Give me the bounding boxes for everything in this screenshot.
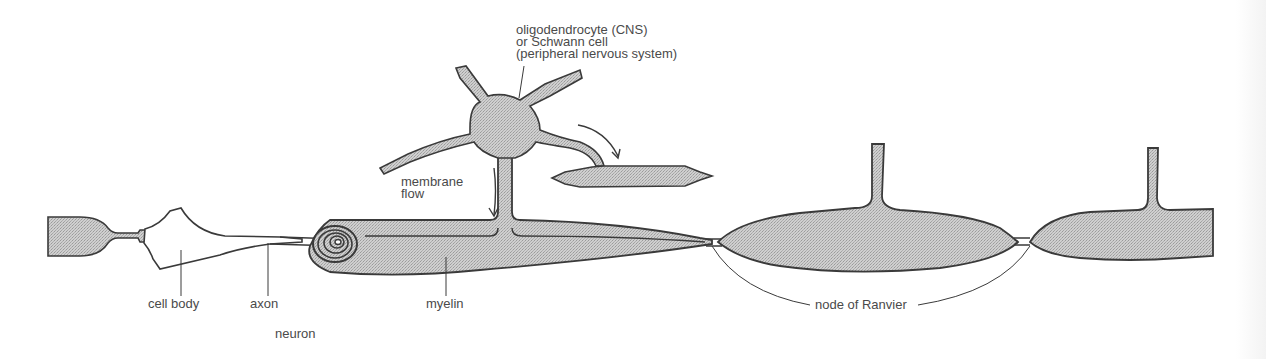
page-edge-shadow — [1236, 0, 1266, 359]
myelination-diagram: oligodendrocyte (CNS) or Schwann cell (p… — [0, 0, 1266, 359]
myelin-spiral — [313, 226, 357, 262]
label-myelin: myelin — [426, 297, 464, 310]
label-membrane-line-2: flow — [401, 188, 463, 200]
label-glia-line-3: (peripheral nervous system) — [516, 48, 677, 60]
neuron-cell-body — [144, 208, 302, 269]
dendrite-left — [48, 217, 145, 256]
myelin-segment-2 — [718, 144, 1018, 272]
label-node-of-ranvier: node of Ranvier — [815, 298, 907, 311]
label-membrane-flow: membrane flow — [401, 176, 463, 200]
label-cell-body: cell body — [148, 297, 199, 310]
label-neuron: neuron — [275, 327, 315, 340]
label-oligodendrocyte: oligodendrocyte (CNS) or Schwann cell (p… — [516, 24, 677, 60]
label-axon: axon — [250, 297, 278, 310]
myelin-segment-3 — [1030, 148, 1213, 260]
oligodendrocyte — [380, 66, 604, 174]
membrane-flow-arrow-icon — [489, 168, 498, 216]
myelin-segment-detached — [552, 166, 712, 187]
leader-glia — [519, 66, 524, 98]
